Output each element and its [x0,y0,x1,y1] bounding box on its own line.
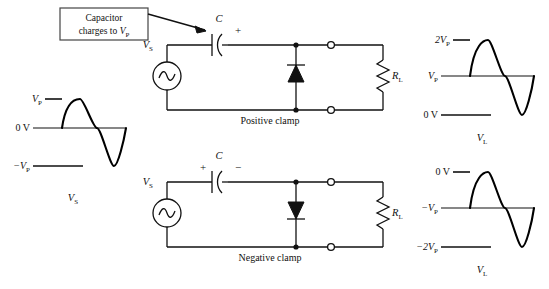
pcout-mid-label-sub: P [434,76,438,84]
pcout-top-label: 2VP [435,34,450,48]
pcout-sine-curve [470,40,534,115]
circuit-negative-clamp: C + − VS RL [143,150,403,263]
nc-load-resistor: RL [377,182,403,247]
pc-source-label-sub: S [149,45,153,53]
pc-res-zigzag [377,60,389,92]
pc-capacitor: C − + [200,13,241,56]
pc-res-label-sub: L [398,76,402,84]
ncout-top-label: 0 V [435,166,450,177]
pcout-top-label-sub: P [446,40,450,48]
input-waveform-vs: VP 0 V −VP VS [13,93,126,206]
output-waveform-negative-clamp: 0 V −VP −2VP VL [416,166,534,278]
pc-diode-triangle [288,65,304,82]
nc-output-terminal-top [328,179,335,186]
vs-neg-peak-label-sub: P [26,166,30,174]
pc-load-resistor: RL [377,45,403,110]
pcout-caption: VL [477,132,488,146]
nc-res-zigzag [377,197,389,229]
vs-zero-label: 0 V [15,122,30,133]
figure-canvas: Capacitor charges to VP VP 0 V −VP [0,0,549,289]
pc-output-terminal-bottom [328,107,335,114]
vs-neg-peak-label: −VP [13,160,30,174]
pc-caption: Positive clamp [240,115,299,126]
nc-capacitor: C + − [200,150,241,193]
nc-res-label-sub: L [398,213,402,221]
ncout-mid-label-sub: P [434,208,438,216]
pc-node-bottom [293,107,298,112]
pcout-bottom-label: 0 V [423,109,438,120]
ncout-bottom-label-sub: P [434,247,438,255]
pc-cap-label: C [215,13,223,24]
nc-output-terminal-bottom [328,244,335,251]
vs-caption-sub: S [74,198,78,206]
pcout-caption-sub: L [483,138,487,146]
vs-peak-label: VP [32,93,42,107]
pc-diode [287,42,305,112]
ncout-caption: VL [477,264,488,278]
nc-cap-label: C [215,150,223,161]
callout-line2-sub: P [125,31,129,39]
nc-source-label: VS [143,176,153,190]
pc-cap-plate-right [218,34,223,56]
pc-output-terminal-top [328,42,335,49]
nc-cap-plate-right [218,171,223,193]
ncout-sine-curve [470,172,534,247]
nc-diode [287,179,305,249]
clamper-figure-svg: Capacitor charges to VP VP 0 V −VP [0,0,549,289]
nc-diode-triangle [288,202,304,219]
callout-line2-pre: charges to [79,26,120,36]
vs-peak-label-sub: P [38,99,42,107]
circuit-positive-clamp: C − + VS [143,13,403,126]
pc-node-top [293,42,298,47]
pc-cap-sign-right: + [235,24,241,36]
callout-capacitor-charges: Capacitor charges to VP [60,8,206,40]
vs-sine-curve [62,99,126,166]
ncout-mid-label: −VP [421,202,438,216]
callout-line1: Capacitor [86,13,124,23]
nc-cap-sign-left: + [200,161,206,173]
nc-cap-sign-right: − [235,161,241,173]
pc-cap-sign-left: − [200,24,206,36]
pc-source-label: VS [143,39,153,53]
ncout-bottom-label-pre: −2V [416,241,436,252]
pcout-mid-label: VP [428,70,438,84]
nc-caption: Negative clamp [238,252,301,263]
nc-node-bottom [293,244,298,249]
ncout-caption-sub: L [483,270,487,278]
pc-res-label: RL [391,70,403,84]
output-waveform-positive-clamp: 2VP VP 0 V VL [423,34,534,146]
vs-caption: VS [68,192,78,206]
nc-node-top [293,179,298,184]
nc-res-label: RL [391,207,403,221]
nc-source-label-sub: S [149,182,153,190]
ncout-bottom-label: −2VP [416,241,438,255]
